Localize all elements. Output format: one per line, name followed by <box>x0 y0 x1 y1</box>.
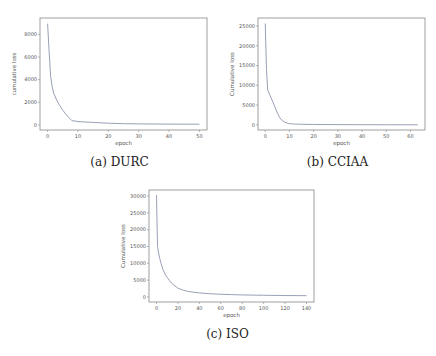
x-tick-label: 120 <box>280 305 290 311</box>
chart-iso: 020406080100120140 050001000015000200002… <box>120 190 314 341</box>
y-axis-label: cumulative loss <box>11 52 17 95</box>
plot-frame <box>258 18 425 130</box>
y-tick-label: 15000 <box>239 62 255 68</box>
y-axis-label: Cumulative loss <box>120 224 126 268</box>
series-line-cumulative-loss <box>265 24 417 125</box>
y-tick-label: 0 <box>252 122 255 128</box>
x-tick-label: 10 <box>286 133 292 139</box>
subfigure-caption: (c) ISO <box>206 327 249 341</box>
series-line-cumulative-loss <box>48 24 200 125</box>
figure: 01020304050 02000400060008000 epoch cumu… <box>0 0 436 356</box>
x-axis-label: epoch <box>223 312 240 319</box>
y-tick-label: 0 <box>34 122 37 128</box>
y-tick-label: 5000 <box>242 102 255 108</box>
subfigure-caption: (b) CCIAA <box>307 155 369 169</box>
y-ticks: 050001000015000200002500030000 <box>130 193 149 300</box>
subfigure-caption: (a) DURC <box>90 155 148 169</box>
y-tick-label: 20000 <box>239 43 255 49</box>
x-ticks: 0102030405060 <box>264 130 414 139</box>
x-ticks: 01020304050 <box>46 130 203 139</box>
chart-durc: 01020304050 02000400060008000 epoch cumu… <box>11 18 207 169</box>
y-tick-label: 6000 <box>24 54 37 60</box>
x-tick-label: 0 <box>264 133 267 139</box>
x-axis-label: epoch <box>333 140 350 147</box>
x-tick-label: 10 <box>75 133 81 139</box>
x-tick-label: 0 <box>155 305 158 311</box>
x-tick-label: 20 <box>175 305 181 311</box>
y-ticks: 0500010000150002000025000 <box>239 23 258 128</box>
x-ticks: 020406080100120140 <box>155 302 311 311</box>
x-tick-label: 80 <box>239 305 245 311</box>
y-tick-label: 10000 <box>239 82 255 88</box>
y-axis-label: Cumulative loss <box>229 52 235 96</box>
x-tick-label: 0 <box>46 133 49 139</box>
x-tick-label: 60 <box>407 133 413 139</box>
y-tick-label: 5000 <box>133 277 146 283</box>
x-tick-label: 140 <box>302 305 312 311</box>
y-tick-label: 25000 <box>239 23 255 29</box>
y-tick-label: 15000 <box>130 243 146 249</box>
x-tick-label: 50 <box>383 133 389 139</box>
chart-cciaa: 0102030405060 0500010000150002000025000 … <box>229 18 425 169</box>
x-tick-label: 50 <box>196 133 202 139</box>
y-tick-label: 30000 <box>130 193 146 199</box>
y-tick-label: 20000 <box>130 226 146 232</box>
x-tick-label: 60 <box>218 305 224 311</box>
y-tick-label: 4000 <box>24 76 37 82</box>
x-tick-label: 30 <box>335 133 341 139</box>
y-tick-label: 8000 <box>24 31 37 37</box>
y-tick-label: 25000 <box>130 210 146 216</box>
y-tick-label: 2000 <box>24 99 37 105</box>
x-tick-label: 40 <box>196 305 202 311</box>
y-tick-label: 10000 <box>130 260 146 266</box>
y-ticks: 02000400060008000 <box>24 31 40 128</box>
x-tick-label: 20 <box>310 133 316 139</box>
x-tick-label: 40 <box>166 133 172 139</box>
x-tick-label: 40 <box>359 133 365 139</box>
x-tick-label: 100 <box>259 305 269 311</box>
x-axis-label: epoch <box>115 140 132 147</box>
x-tick-label: 30 <box>135 133 141 139</box>
series-line-cumulative-loss <box>157 195 307 296</box>
y-tick-label: 0 <box>143 294 146 300</box>
x-tick-label: 20 <box>105 133 111 139</box>
